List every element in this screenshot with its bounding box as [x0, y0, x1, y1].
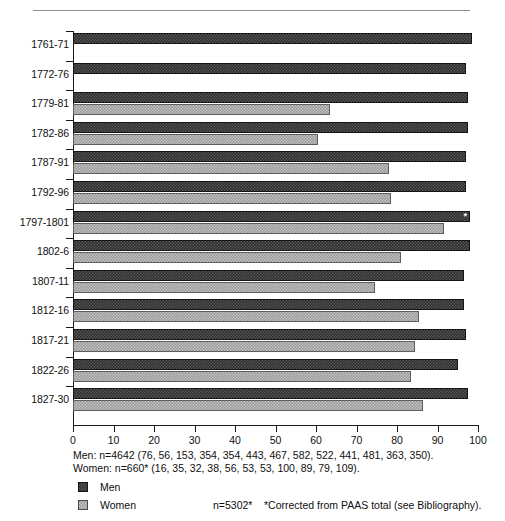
bar-annotation-asterisk: * — [463, 211, 467, 222]
legend-swatch-men-icon — [78, 482, 88, 492]
row-label-1779-81: 1779-81 — [0, 97, 69, 109]
bar-men-1779-81 — [73, 92, 468, 103]
bar-men-1782-86 — [73, 122, 468, 133]
x-tick-label-50: 50 — [256, 434, 296, 446]
x-tick-label-40: 40 — [215, 434, 255, 446]
x-tick — [73, 425, 74, 432]
bar-women-1817-21 — [73, 341, 415, 352]
bar-men-1792-96 — [73, 181, 466, 192]
row-label-1827-30: 1827-30 — [0, 393, 69, 405]
x-tick-label-60: 60 — [296, 434, 336, 446]
chart-row: 1807-11 — [0, 268, 505, 297]
row-label-1797-1801: 1797-1801 — [0, 216, 69, 228]
horizontal-bar-chart: 1761-711772-761779-811782-861787-911792-… — [0, 0, 505, 521]
y-tick — [66, 268, 74, 269]
x-tick-label-10: 10 — [94, 434, 134, 446]
row-label-1772-76: 1772-76 — [0, 68, 69, 80]
bar-men-1772-76 — [73, 63, 466, 74]
y-tick — [66, 297, 74, 298]
x-tick-label-90: 90 — [418, 434, 458, 446]
row-label-1807-11: 1807-11 — [0, 275, 69, 287]
row-label-1782-86: 1782-86 — [0, 127, 69, 139]
bar-women-1812-16 — [73, 311, 419, 322]
chart-row: 1802-6 — [0, 238, 505, 267]
chart-row: 1822-26 — [0, 357, 505, 386]
chart-row: 1792-96 — [0, 179, 505, 208]
x-tick — [438, 425, 439, 432]
y-tick — [66, 61, 74, 62]
bar-men-1787-91 — [73, 151, 466, 162]
x-tick-label-20: 20 — [134, 434, 174, 446]
bar-women-1787-91 — [73, 163, 389, 174]
row-label-1792-96: 1792-96 — [0, 186, 69, 198]
x-tick — [154, 425, 155, 432]
y-tick — [66, 357, 74, 358]
x-tick — [276, 425, 277, 432]
y-tick — [66, 238, 74, 239]
bar-men-1807-11 — [73, 270, 464, 281]
x-tick-label-80: 80 — [377, 434, 417, 446]
footnote-women: Women: n=660* (16, 35, 32, 38, 56, 53, 5… — [73, 462, 360, 475]
row-label-1787-91: 1787-91 — [0, 156, 69, 168]
x-tick-label-0: 0 — [53, 434, 93, 446]
x-tick-label-30: 30 — [175, 434, 215, 446]
bar-women-1779-81 — [73, 104, 330, 115]
bar-men-1761-71 — [73, 33, 472, 44]
chart-row: 1787-91 — [0, 149, 505, 178]
y-tick — [66, 90, 74, 91]
x-tick — [478, 425, 479, 432]
bar-women-1822-26 — [73, 371, 411, 382]
bar-men-1822-26 — [73, 359, 458, 370]
x-tick — [357, 425, 358, 432]
y-tick — [66, 209, 74, 210]
y-tick — [66, 149, 74, 150]
chart-row: 1779-81 — [0, 90, 505, 119]
y-tick — [66, 31, 74, 32]
chart-row: 1817-21 — [0, 327, 505, 356]
bar-men-1802-6 — [73, 240, 470, 251]
bar-women-1802-6 — [73, 252, 401, 263]
row-label-1817-21: 1817-21 — [0, 334, 69, 346]
chart-row: 1772-76 — [0, 61, 505, 90]
x-tick — [114, 425, 115, 432]
x-tick-label-70: 70 — [337, 434, 377, 446]
bar-women-1792-96 — [73, 193, 391, 204]
x-tick-label-100: 100 — [458, 434, 498, 446]
legend-footnote-note: *Corrected from PAAS total (see Bibliogr… — [264, 499, 481, 512]
bar-women-1782-86 — [73, 134, 318, 145]
bar-women-1807-11 — [73, 282, 375, 293]
chart-row: 1812-16 — [0, 297, 505, 326]
chart-row: 1827-30 — [0, 386, 505, 415]
bar-men-1797-1801: * — [73, 211, 470, 222]
bar-women-1827-30 — [73, 400, 423, 411]
legend-count-women: n=5302* — [213, 499, 252, 512]
legend-swatch-women-icon — [78, 500, 88, 510]
chart-row: 1761-71 — [0, 31, 505, 60]
y-tick — [66, 179, 74, 180]
row-label-1822-26: 1822-26 — [0, 364, 69, 376]
y-tick — [66, 120, 74, 121]
row-label-1812-16: 1812-16 — [0, 304, 69, 316]
row-label-1802-6: 1802-6 — [0, 245, 69, 257]
legend-label-men: Men — [100, 481, 120, 494]
bar-men-1817-21 — [73, 329, 466, 340]
legend-label-women: Women — [100, 499, 136, 512]
bar-men-1812-16 — [73, 299, 464, 310]
chart-row: 1782-86 — [0, 120, 505, 149]
footnote-men: Men: n=4642 (76, 56, 153, 354, 354, 443,… — [73, 449, 434, 462]
x-tick — [397, 425, 398, 432]
y-tick — [66, 327, 74, 328]
x-tick — [235, 425, 236, 432]
chart-row: 1797-1801* — [0, 209, 505, 238]
x-tick — [195, 425, 196, 432]
x-tick — [316, 425, 317, 432]
bar-women-1797-1801 — [73, 223, 444, 234]
y-tick — [66, 386, 74, 387]
bar-men-1827-30 — [73, 388, 468, 399]
row-label-1761-71: 1761-71 — [0, 38, 69, 50]
